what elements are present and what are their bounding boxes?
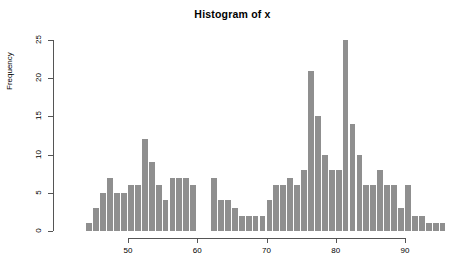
histogram-bar xyxy=(107,178,113,231)
histogram-bar xyxy=(433,223,439,231)
histogram-bar xyxy=(398,208,404,231)
histogram-bar xyxy=(419,216,425,231)
histogram-bar xyxy=(176,178,182,231)
histogram-bar xyxy=(322,155,328,231)
histogram-bar xyxy=(225,200,231,231)
histogram-bar xyxy=(218,200,224,231)
histogram-bar xyxy=(114,193,120,231)
histogram-bar xyxy=(190,185,196,231)
histogram-bar xyxy=(121,193,127,231)
histogram-bar xyxy=(363,185,369,231)
histogram-bar xyxy=(329,170,335,231)
histogram-plot: Histogram of x Frequency 0510152025 5060… xyxy=(0,0,465,274)
histogram-bar xyxy=(391,185,397,231)
histogram-bar xyxy=(315,116,321,231)
histogram-bar xyxy=(405,185,411,231)
histogram-bar xyxy=(260,216,266,231)
histogram-bar xyxy=(135,185,141,231)
histogram-bar xyxy=(370,185,376,231)
histogram-bar xyxy=(170,178,176,231)
histogram-bar xyxy=(128,185,134,231)
histogram-bar xyxy=(287,178,293,231)
histogram-bar xyxy=(239,216,245,231)
histogram-bar xyxy=(412,216,418,231)
histogram-bar xyxy=(350,124,356,231)
histogram-bar xyxy=(211,178,217,231)
histogram-bar xyxy=(357,155,363,231)
histogram-bar xyxy=(273,185,279,231)
histogram-bar xyxy=(426,223,432,231)
histogram-bar xyxy=(93,208,99,231)
histogram-bar xyxy=(163,200,169,231)
histogram-bar xyxy=(246,216,252,231)
histogram-bar xyxy=(294,185,300,231)
histogram-bar xyxy=(377,170,383,231)
histogram-bar xyxy=(142,139,148,231)
histogram-bar xyxy=(86,223,92,231)
histogram-bar xyxy=(280,185,286,231)
histogram-bar xyxy=(308,71,314,231)
histogram-bar xyxy=(336,170,342,231)
histogram-bar xyxy=(301,170,307,231)
histogram-bars xyxy=(0,0,465,274)
histogram-bar xyxy=(183,178,189,231)
histogram-bar xyxy=(253,216,259,231)
histogram-bar xyxy=(156,185,162,231)
histogram-bar xyxy=(384,185,390,231)
histogram-bar xyxy=(232,208,238,231)
histogram-bar xyxy=(149,162,155,231)
histogram-bar xyxy=(440,223,446,231)
histogram-bar xyxy=(343,40,349,231)
histogram-bar xyxy=(267,200,273,231)
histogram-bar xyxy=(100,193,106,231)
